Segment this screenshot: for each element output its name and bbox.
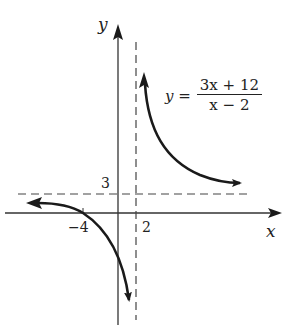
x-axis-label: x <box>266 221 276 241</box>
equation-lhs: y = <box>165 87 191 105</box>
graph-canvas <box>0 0 295 329</box>
tick-label-neg4: −4 <box>68 219 89 235</box>
y-axis-label: y <box>98 14 108 34</box>
equation-numerator: 3x + 12 <box>197 76 262 95</box>
tick-label-2: 2 <box>142 219 151 235</box>
tick-label-3: 3 <box>101 175 110 191</box>
curve-left-branch <box>38 203 129 300</box>
equation-fraction: 3x + 12 x − 2 <box>197 76 262 115</box>
equation-label: y = 3x + 12 x − 2 <box>165 76 262 115</box>
equation-denominator: x − 2 <box>209 95 249 115</box>
